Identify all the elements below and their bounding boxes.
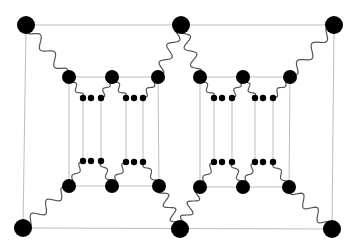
small-node xyxy=(219,95,225,101)
spring-connection-lines xyxy=(23,25,334,229)
outer-node-tm xyxy=(172,16,190,34)
small-node xyxy=(219,159,225,165)
small-node xyxy=(252,95,258,101)
spring-line xyxy=(23,186,69,228)
outer-node-tl xyxy=(17,16,35,34)
outer-nodes xyxy=(14,16,343,238)
small-nodes xyxy=(80,95,276,165)
small-node xyxy=(211,159,217,165)
outer-node-bl xyxy=(14,219,32,237)
small-node xyxy=(98,158,104,164)
straight-line xyxy=(289,77,290,187)
inner-node-l1t xyxy=(62,70,76,84)
small-node xyxy=(140,159,146,165)
small-node xyxy=(98,95,104,101)
outer-node-tr xyxy=(325,16,343,34)
straight-connection-lines xyxy=(23,25,334,229)
network-diagram xyxy=(0,0,355,252)
small-node xyxy=(229,95,235,101)
inner-node-l2b xyxy=(105,179,119,193)
inner-node-r1b xyxy=(193,180,207,194)
outer-node-br xyxy=(323,220,341,238)
inner-node-l1b xyxy=(62,179,76,193)
small-node xyxy=(229,159,235,165)
small-node xyxy=(211,95,217,101)
small-node xyxy=(131,95,137,101)
small-node xyxy=(80,95,86,101)
inner-node-l3b xyxy=(152,179,166,193)
inner-node-r3b xyxy=(282,180,296,194)
inner-node-r2b xyxy=(236,180,250,194)
small-node xyxy=(270,95,276,101)
small-node xyxy=(140,95,146,101)
inner-node-r2t xyxy=(236,70,250,84)
small-node xyxy=(252,159,258,165)
inner-node-r3t xyxy=(283,70,297,84)
straight-line xyxy=(23,25,26,228)
straight-line xyxy=(332,25,334,229)
spring-line xyxy=(289,187,332,229)
small-node xyxy=(260,159,266,165)
straight-line xyxy=(158,77,159,186)
inner-node-r1t xyxy=(193,70,207,84)
small-node xyxy=(123,95,129,101)
small-node xyxy=(88,95,94,101)
small-node xyxy=(80,158,86,164)
inner-node-l3t xyxy=(151,70,165,84)
small-node xyxy=(88,158,94,164)
small-node xyxy=(131,159,137,165)
small-node xyxy=(123,159,129,165)
inner-nodes xyxy=(62,70,297,194)
spring-line xyxy=(26,25,69,77)
inner-node-l2t xyxy=(105,70,119,84)
small-node xyxy=(260,95,266,101)
spring-line xyxy=(290,25,334,77)
outer-node-bm xyxy=(171,220,189,238)
small-node xyxy=(270,159,276,165)
